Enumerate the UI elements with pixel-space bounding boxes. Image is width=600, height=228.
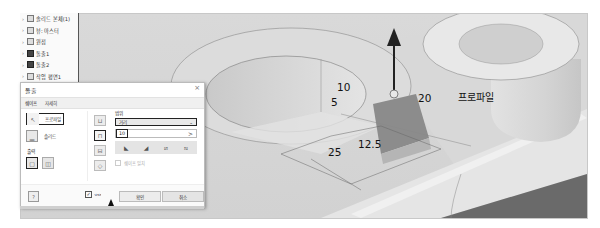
- dialog-bottom-edge: [20, 206, 204, 209]
- origin-folder-icon: [27, 38, 34, 45]
- work-plane-icon: [27, 73, 34, 80]
- direction-default-button[interactable]: ◣: [117, 143, 136, 152]
- tree-item-origin[interactable]: › 원점: [20, 36, 78, 48]
- output-solid-button[interactable]: ▢: [26, 157, 38, 169]
- dialog-title: 돌출: [25, 86, 37, 95]
- extents-label: 범위: [115, 110, 197, 116]
- cut-button[interactable]: ⊓: [94, 130, 106, 141]
- divider: [87, 111, 88, 181]
- chevron-right-icon[interactable]: >: [188, 130, 196, 137]
- profile-select-button[interactable]: ↖ 프로파일: [26, 113, 64, 125]
- extrude-feature-icon: [27, 50, 34, 57]
- tree-item-work-plane1[interactable]: › 작업 평면1: [20, 71, 78, 83]
- model-browser: › 솔리드 본체(1) › 뷰: 마스터 › 원점 › 돌출1 › 돌출2 › …: [20, 13, 79, 83]
- selection-group: ↖ 프로파일 ▁ 솔리드 출력 ▢ ◫: [26, 113, 84, 169]
- extents-group: 범위 거리 ⌄ 10 > ◣ ◢ ⧄ ⧅ 쉐이프 일치: [115, 110, 197, 166]
- glasses-preview-icon: 👓: [94, 191, 101, 198]
- dimension-12-5[interactable]: 12.5: [358, 138, 381, 150]
- new-solid-button[interactable]: ◇: [94, 160, 106, 171]
- tree-item-extrusion1[interactable]: › 돌출1: [20, 48, 78, 60]
- cancel-button[interactable]: 취소: [162, 191, 204, 202]
- distance-input[interactable]: 10 >: [115, 129, 197, 138]
- solid-label: 솔리드: [44, 133, 56, 139]
- operation-buttons: ⊔ ⊓ ⊟ ◇: [94, 115, 106, 175]
- tab-shape[interactable]: 쉐이프: [21, 100, 41, 106]
- ok-button[interactable]: 확인: [119, 191, 161, 202]
- dimension-5[interactable]: 5: [331, 96, 338, 108]
- checkbox-icon: [115, 160, 121, 166]
- dimension-25[interactable]: 25: [328, 146, 341, 158]
- help-icon[interactable]: ?: [28, 191, 39, 202]
- tab-more[interactable]: 자세히: [41, 100, 61, 106]
- tree-item-label: 돌출1: [36, 50, 49, 57]
- tree-item-label: 돌출2: [36, 61, 49, 68]
- match-shape-label: 쉐이프 일치: [124, 160, 145, 166]
- dialog-tabs: 쉐이프 자세히: [21, 97, 204, 109]
- extrude-feature-icon: [27, 61, 34, 68]
- checkbox-checked-icon: ✓: [85, 191, 92, 198]
- solid-select-button[interactable]: ▁ 솔리드: [26, 130, 84, 142]
- output-surface-button[interactable]: ◫: [42, 157, 54, 169]
- direction-asymmetric-button[interactable]: ⧅: [176, 143, 195, 152]
- profile-tag: 프로파일: [458, 89, 494, 104]
- tree-item-label: 뷰: 마스터: [36, 27, 59, 34]
- triangle-marker-icon: [108, 199, 114, 206]
- dimension-20[interactable]: 20: [418, 92, 431, 104]
- direction-flipped-button[interactable]: ◢: [137, 143, 156, 152]
- tree-item-label: 작업 평면1: [36, 73, 61, 80]
- intersect-button[interactable]: ⊟: [94, 145, 106, 156]
- preview-checkbox[interactable]: ✓ 👓: [85, 191, 101, 198]
- match-shape-checkbox[interactable]: 쉐이프 일치: [115, 160, 197, 166]
- cursor-icon: ↖: [27, 113, 39, 125]
- tree-item-view[interactable]: › 뷰: 마스터: [20, 25, 78, 37]
- tree-item-extrusion2[interactable]: › 돌출2: [20, 59, 78, 71]
- dimension-10[interactable]: 10: [337, 81, 350, 93]
- tree-item-solid-bodies[interactable]: › 솔리드 본체(1): [20, 13, 78, 25]
- view-icon: [27, 27, 34, 34]
- profile-label: 프로파일: [45, 116, 61, 122]
- extents-type-value: 거리: [119, 119, 127, 125]
- solid-bodies-icon: [27, 15, 34, 22]
- solid-icon: ▁: [26, 130, 38, 142]
- tree-item-label: 원점: [36, 38, 46, 45]
- distance-value[interactable]: 10: [116, 129, 128, 138]
- close-icon[interactable]: ×: [194, 84, 200, 92]
- join-button[interactable]: ⊔: [94, 115, 106, 126]
- tree-item-label: 솔리드 본체(1): [36, 15, 70, 22]
- output-label: 출력: [27, 147, 84, 154]
- direction-toggles: ◣ ◢ ⧄ ⧅: [115, 141, 197, 154]
- chevron-down-icon: ⌄: [189, 120, 193, 125]
- extrude-dialog: 돌출 × 쉐이프 자세히 ↖ 프로파일 ▁ 솔리드 출력 ▢ ◫ ⊔ ⊓ ⊟ ◇…: [20, 82, 205, 208]
- output-options: ▢ ◫: [26, 157, 84, 169]
- direction-symmetric-button[interactable]: ⧄: [157, 143, 176, 152]
- extents-type-dropdown[interactable]: 거리 ⌄: [115, 118, 197, 126]
